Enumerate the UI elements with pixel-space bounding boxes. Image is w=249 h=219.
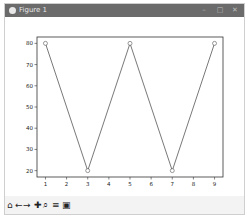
x-tick-label: 2	[65, 181, 69, 187]
plot-frame	[37, 37, 223, 177]
y-tick-label: 60	[26, 83, 33, 89]
close-button[interactable]: ✕	[229, 5, 241, 16]
forward-icon[interactable]: →	[23, 199, 31, 211]
back-icon[interactable]: ←	[15, 199, 23, 211]
x-tick-label: 5	[128, 181, 132, 187]
x-tick-label: 8	[192, 181, 196, 187]
y-tick-label: 40	[26, 125, 33, 131]
data-point-marker	[170, 169, 174, 173]
title-bar[interactable]: Figure 1 – □ ✕	[5, 4, 244, 17]
y-tick-label: 20	[26, 168, 33, 174]
pan-icon[interactable]: ✚	[34, 199, 42, 211]
x-tick-label: 7	[171, 181, 175, 187]
x-tick-label: 3	[86, 181, 90, 187]
minimize-button[interactable]: –	[198, 5, 210, 16]
y-tick-label: 80	[26, 40, 33, 46]
maximize-button[interactable]: □	[214, 5, 226, 16]
x-tick-label: 9	[213, 181, 217, 187]
data-point-marker	[43, 41, 47, 45]
data-point-marker	[86, 169, 90, 173]
figure-window: Figure 1 – □ ✕ 12345678920304050607080 ⌂…	[4, 3, 245, 215]
home-icon[interactable]: ⌂	[7, 199, 13, 211]
y-tick-label: 50	[26, 104, 33, 110]
zoom-icon[interactable]: ⌕	[43, 199, 48, 211]
subplots-icon[interactable]: ≡	[52, 199, 60, 211]
y-tick-label: 30	[26, 146, 33, 152]
app-icon	[9, 7, 16, 14]
y-tick-label: 70	[26, 62, 33, 68]
x-tick-label: 4	[107, 181, 111, 187]
x-tick-label: 1	[44, 181, 48, 187]
navigation-toolbar: ⌂←→✚⌕≡▣	[5, 196, 244, 214]
line-chart: 12345678920304050607080	[5, 17, 246, 195]
window-title: Figure 1	[19, 5, 47, 16]
x-tick-label: 6	[149, 181, 153, 187]
data-point-marker	[128, 41, 132, 45]
data-point-marker	[213, 41, 217, 45]
save-icon[interactable]: ▣	[62, 199, 71, 211]
